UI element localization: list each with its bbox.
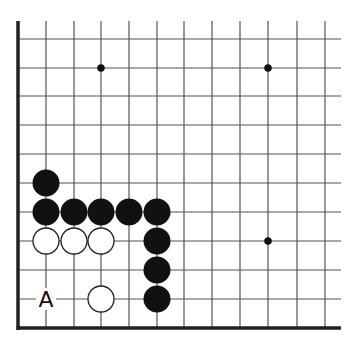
black-stone: [144, 286, 171, 313]
white-stone: [88, 286, 114, 312]
black-stone: [61, 199, 88, 226]
board-grid: [17, 21, 342, 330]
black-stone: [116, 199, 143, 226]
star-point-icon: [97, 64, 105, 72]
go-board: A: [0, 0, 356, 347]
white-stone: [88, 228, 114, 254]
black-stone: [144, 257, 171, 284]
star-point-icon: [264, 237, 272, 245]
star-point-icon: [264, 64, 272, 72]
black-stone: [144, 199, 171, 226]
black-stone: [33, 199, 60, 226]
board-labels: A: [36, 287, 56, 312]
white-stone: [33, 228, 59, 254]
point-label: A: [38, 287, 53, 312]
black-stone: [144, 228, 171, 255]
black-stone: [33, 170, 60, 197]
black-stone: [88, 199, 115, 226]
white-stone: [61, 228, 87, 254]
